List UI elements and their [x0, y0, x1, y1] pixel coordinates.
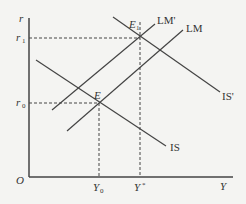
point-e-label: E	[93, 89, 101, 101]
lm-prime-label: LM'	[157, 14, 176, 26]
point-e1-sub: 1	[136, 24, 140, 32]
ystar-label: Y	[134, 181, 142, 193]
is-label: IS	[170, 141, 180, 153]
is-prime-label: IS'	[222, 90, 234, 102]
r1-sub: 1	[22, 37, 26, 45]
r0-sub: 0	[22, 102, 26, 110]
point-e1-label: E	[128, 18, 136, 30]
islm-diagram: r Y O r 1 r 0 Y 0 Y * E E 1 IS IS' LM LM…	[0, 0, 246, 204]
y0-sub: 0	[100, 187, 104, 195]
r1-label: r	[16, 31, 21, 43]
diagram-canvas: r Y O r 1 r 0 Y 0 Y * E E 1 IS IS' LM LM…	[0, 0, 246, 204]
lm-label: LM	[186, 22, 203, 34]
origin-label: O	[16, 174, 24, 186]
lm-curve	[67, 30, 183, 131]
y-axis-label: r	[19, 12, 24, 24]
ystar-sub: *	[142, 181, 146, 189]
x-axis-label: Y	[220, 180, 228, 192]
r0-label: r	[16, 96, 21, 108]
